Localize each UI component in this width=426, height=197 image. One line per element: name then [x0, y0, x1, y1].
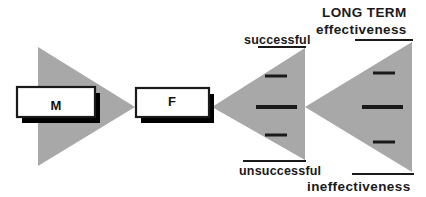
- label-effectiveness: effectiveness: [316, 22, 407, 37]
- label-long-term: LONG TERM: [322, 5, 407, 20]
- m-box-label: M: [51, 98, 62, 113]
- label-ineffectiveness: ineffectiveness: [307, 179, 411, 194]
- label-unsuccessful: unsuccessful: [239, 164, 321, 178]
- diagram-svg: M F successful unsuccessful LONG TERM ef…: [0, 0, 426, 197]
- diagram-canvas: M F successful unsuccessful LONG TERM ef…: [0, 0, 426, 197]
- label-successful: successful: [244, 33, 311, 47]
- outcome-triangle: [212, 48, 305, 160]
- f-box-label: F: [168, 94, 176, 109]
